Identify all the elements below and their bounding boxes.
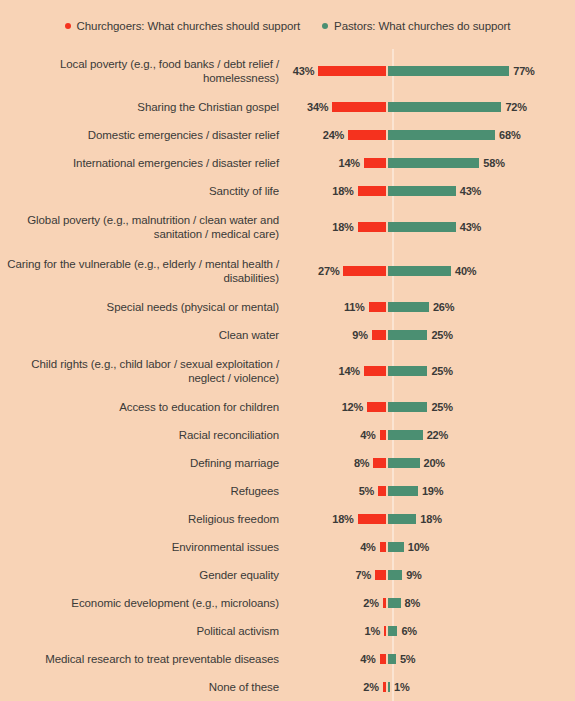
- chart-row: Economic development (e.g., microloans)2…: [0, 589, 575, 617]
- churchgoers-side: 4%: [285, 541, 386, 553]
- pastors-bar: [388, 598, 401, 608]
- pastors-side: 25%: [386, 329, 575, 341]
- category-label: Sanctity of life: [0, 184, 285, 198]
- pastors-value-label: 18%: [420, 513, 441, 525]
- pastors-value-label: 10%: [408, 541, 429, 553]
- pastors-side: 1%: [386, 681, 575, 693]
- pastors-side: 19%: [386, 485, 575, 497]
- churchgoers-bar: [343, 266, 386, 276]
- churchgoers-side: 8%: [285, 457, 386, 469]
- chart-row: Political activism1%6%: [0, 617, 575, 645]
- chart-row: Defining marriage8%20%: [0, 449, 575, 477]
- churchgoers-value-label: 27%: [318, 265, 339, 277]
- pastors-value-label: 20%: [424, 457, 445, 469]
- pastors-bar: [388, 486, 418, 496]
- churchgoers-bar: [369, 302, 386, 312]
- chart-row: Sanctity of life18%43%: [0, 177, 575, 205]
- chart-row: Racial reconciliation4%22%: [0, 421, 575, 449]
- pastors-side: 68%: [386, 129, 575, 141]
- churchgoers-value-label: 8%: [354, 457, 370, 469]
- chart-row: Religious freedom18%18%: [0, 505, 575, 533]
- pastors-value-label: 5%: [400, 653, 416, 665]
- chart-row: International emergencies / disaster rel…: [0, 149, 575, 177]
- pastors-value-label: 6%: [401, 625, 417, 637]
- pastors-bar: [388, 330, 427, 340]
- pastors-value-label: 72%: [505, 101, 526, 113]
- pastors-bar: [388, 402, 427, 412]
- churchgoers-value-label: 4%: [360, 541, 376, 553]
- category-label: Environmental issues: [0, 540, 285, 554]
- churchgoers-value-label: 43%: [293, 65, 314, 77]
- churchgoers-value-label: 18%: [332, 185, 353, 197]
- churchgoers-bar: [358, 222, 386, 232]
- category-label: Political activism: [0, 624, 285, 638]
- churchgoers-side: 5%: [285, 485, 386, 497]
- category-label: Refugees: [0, 484, 285, 498]
- churchgoers-side: 2%: [285, 597, 386, 609]
- churchgoers-value-label: 14%: [339, 365, 360, 377]
- churchgoers-bar: [364, 158, 386, 168]
- row-plot: 8%20%: [285, 449, 575, 477]
- churchgoers-side: 18%: [285, 185, 386, 197]
- row-plot: 5%19%: [285, 477, 575, 505]
- category-label: Racial reconciliation: [0, 428, 285, 442]
- chart-row: None of these2%1%: [0, 673, 575, 701]
- churchgoers-side: 18%: [285, 513, 386, 525]
- churchgoers-side: 27%: [285, 265, 386, 277]
- pastors-bar: [388, 654, 396, 664]
- churchgoers-side: 14%: [285, 365, 386, 377]
- churchgoers-side: 12%: [285, 401, 386, 413]
- churchgoers-bar: [318, 66, 386, 76]
- legend-entry-churchgoers: Churchgoers: What churches should suppor…: [65, 20, 300, 32]
- legend-label: Pastors: What churches do support: [334, 20, 510, 32]
- churchgoers-value-label: 4%: [360, 429, 376, 441]
- pastors-bar: [388, 186, 456, 196]
- churchgoers-side: 24%: [285, 129, 386, 141]
- chart-rows: Local poverty (e.g., food banks / debt r…: [0, 49, 575, 701]
- churchgoers-side: 14%: [285, 157, 386, 169]
- churchgoers-value-label: 18%: [332, 513, 353, 525]
- pastors-bar: [388, 222, 456, 232]
- chart-row: Medical research to treat preventable di…: [0, 645, 575, 673]
- churchgoers-bar: [358, 186, 386, 196]
- pastors-bar: [388, 542, 404, 552]
- chart-row: Local poverty (e.g., food banks / debt r…: [0, 49, 575, 93]
- category-label: Clean water: [0, 328, 285, 342]
- pastors-bar: [388, 626, 397, 636]
- churchgoers-side: 2%: [285, 681, 386, 693]
- row-plot: 14%58%: [285, 149, 575, 177]
- row-plot: 18%18%: [285, 505, 575, 533]
- chart-legend: Churchgoers: What churches should suppor…: [0, 0, 575, 37]
- pastors-side: 40%: [386, 265, 575, 277]
- churchgoers-side: 9%: [285, 329, 386, 341]
- churchgoers-side: 34%: [285, 101, 386, 113]
- category-label: Domestic emergencies / disaster relief: [0, 128, 285, 142]
- pastors-side: 25%: [386, 401, 575, 413]
- pastors-value-label: 19%: [422, 485, 443, 497]
- row-plot: 14%25%: [285, 349, 575, 393]
- pastors-value-label: 26%: [433, 301, 454, 313]
- chart-row: Refugees5%19%: [0, 477, 575, 505]
- churchgoers-value-label: 9%: [352, 329, 368, 341]
- row-plot: 9%25%: [285, 321, 575, 349]
- churchgoers-bar: [378, 486, 386, 496]
- pastors-bar: [388, 130, 495, 140]
- pastors-value-label: 40%: [455, 265, 476, 277]
- legend-entry-pastors: Pastors: What churches do support: [322, 20, 510, 32]
- pastors-value-label: 68%: [499, 129, 520, 141]
- pastors-side: 58%: [386, 157, 575, 169]
- chart-row: Global poverty (e.g., malnutrition / cle…: [0, 205, 575, 249]
- chart-row: Clean water9%25%: [0, 321, 575, 349]
- pastors-bar: [388, 66, 509, 76]
- pastors-value-label: 43%: [460, 185, 481, 197]
- pastors-value-label: 1%: [394, 681, 410, 693]
- chart-row: Environmental issues4%10%: [0, 533, 575, 561]
- churchgoers-side: 18%: [285, 221, 386, 233]
- legend-label: Churchgoers: What churches should suppor…: [77, 20, 300, 32]
- row-plot: 24%68%: [285, 121, 575, 149]
- churchgoers-bar: [364, 366, 386, 376]
- chart-row: Sharing the Christian gospel34%72%: [0, 93, 575, 121]
- category-label: None of these: [0, 680, 285, 694]
- category-label: Economic development (e.g., microloans): [0, 596, 285, 610]
- pastors-bar: [388, 366, 427, 376]
